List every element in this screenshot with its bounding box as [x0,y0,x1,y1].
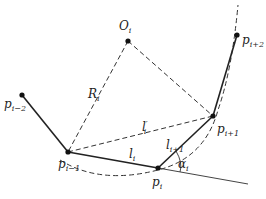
label-p-i-plus-2: pi+2 [242,34,264,49]
label-l-prime-i: l′i [142,120,146,136]
chord-l-prime-i [68,116,213,152]
point-p-i [155,165,160,170]
point-p-i-minus-1 [65,149,70,154]
fitted-arc [60,5,238,176]
label-p-i: pi [152,176,162,191]
label-O-i: Oi [119,20,131,35]
point-p-i-minus-2 [19,92,24,97]
point-O-i [125,38,130,43]
label-p-i-minus-1: pi−1 [58,158,80,173]
point-p-i-plus-2 [234,32,239,37]
label-R-i: Ri [88,88,100,103]
diagram-svg [0,0,266,199]
label-p-i-minus-2: pi−2 [4,98,26,113]
segment-p-i-plus-1-to-p-i-plus-2 [213,35,237,116]
segment-p-i-minus-2-to-p-i-minus-1 [22,95,68,152]
radius-line-to-p-i-plus-1 [128,41,213,116]
label-p-i-plus-1: pi+1 [217,123,239,138]
extension-line [158,168,248,184]
label-l-i: li [129,148,135,163]
label-l-i-plus-1: li+1 [166,139,184,154]
segment-l-i [68,152,158,168]
point-p-i-plus-1 [210,113,215,118]
label-alpha-i: αi [178,158,189,173]
diagram-canvas: Oi pi+2 pi−2 Ri l′i pi+1 li+1 li αi pi−1… [0,0,266,199]
